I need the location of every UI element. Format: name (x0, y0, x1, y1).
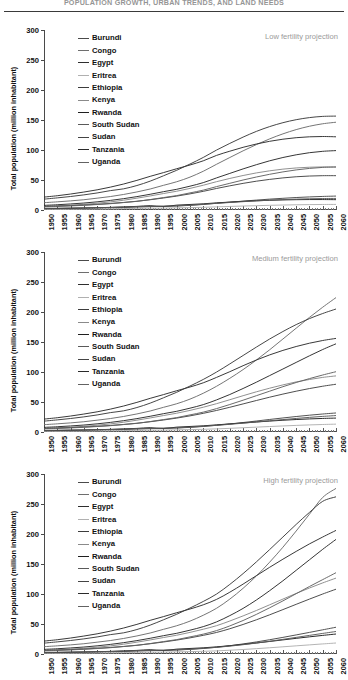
legend-swatch-icon (78, 334, 89, 335)
x-tick-label: 1980 (127, 214, 136, 230)
legend-label: Eritrea (92, 516, 116, 524)
legend-label: South Sudan (92, 343, 139, 351)
legend-item[interactable]: Uganda (78, 600, 139, 612)
legend-item[interactable]: Tanzania (78, 144, 139, 156)
legend-label: Sudan (92, 355, 116, 363)
x-tick-label: 1995 (166, 436, 175, 452)
x-tick-label: 1975 (113, 214, 122, 230)
chart-title: Low fertility projection (265, 32, 338, 41)
x-tick-label: 1955 (60, 658, 69, 674)
legend-item[interactable]: South Sudan (78, 341, 139, 353)
legend-item[interactable]: Rwanda (78, 328, 139, 340)
x-tick-label: 2010 (206, 436, 215, 452)
legend-swatch-icon (78, 606, 89, 607)
chart-legend: BurundiCongoEgyptEritreaEthiopiaKenyaRwa… (78, 32, 139, 168)
legend-item[interactable]: Rwanda (78, 106, 139, 118)
legend-item[interactable]: Burundi (78, 254, 139, 266)
legend-swatch-icon (78, 371, 89, 372)
legend-item[interactable]: Ethiopia (78, 82, 139, 94)
x-tick-label: 2055 (326, 214, 335, 230)
x-tick-label: 2020 (233, 436, 242, 452)
legend-item[interactable]: Uganda (78, 378, 139, 390)
legend-swatch-icon (78, 309, 89, 310)
chart-title: High fertility projection (263, 476, 338, 485)
x-tick-label: 1985 (140, 436, 149, 452)
legend-item[interactable]: Burundi (78, 32, 139, 44)
legend-swatch-icon (78, 494, 89, 495)
legend-item[interactable]: Egypt (78, 501, 139, 513)
y-tick-label: 150 (0, 338, 44, 347)
x-tick-label: 2030 (259, 214, 268, 230)
x-tick-label: 2000 (180, 214, 189, 230)
x-tick-label: 2040 (286, 214, 295, 230)
legend-item[interactable]: Tanzania (78, 366, 139, 378)
x-tick-label: 2035 (273, 214, 282, 230)
x-tick-label: 1950 (47, 214, 56, 230)
legend-item[interactable]: Egypt (78, 57, 139, 69)
legend-item[interactable]: Sudan (78, 575, 139, 587)
x-tick-label: 1950 (47, 436, 56, 452)
legend-item[interactable]: Burundi (78, 476, 139, 488)
y-tick-label: 100 (0, 146, 44, 155)
x-tick-label: 2030 (259, 658, 268, 674)
x-tick-label: 1990 (153, 658, 162, 674)
legend-item[interactable]: Tanzania (78, 588, 139, 600)
x-tick-label: 2005 (193, 436, 202, 452)
legend-item[interactable]: Uganda (78, 156, 139, 168)
legend-item[interactable]: South Sudan (78, 563, 139, 575)
series-line (44, 416, 336, 431)
legend-item[interactable]: Rwanda (78, 550, 139, 562)
legend-label: Eritrea (92, 294, 116, 302)
legend-item[interactable]: Congo (78, 44, 139, 56)
legend-item[interactable]: Ethiopia (78, 304, 139, 316)
legend-label: Congo (92, 47, 116, 55)
legend-item[interactable]: South Sudan (78, 119, 139, 131)
legend-item[interactable]: Sudan (78, 131, 139, 143)
legend-item[interactable]: Congo (78, 488, 139, 500)
x-tick-label: 2015 (220, 436, 229, 452)
x-tick-label: 2055 (326, 436, 335, 452)
legend-label: Rwanda (92, 553, 121, 561)
y-tick-mark (41, 210, 44, 211)
x-tick-label: 2060 (339, 436, 348, 452)
x-tick-label: 1970 (100, 214, 109, 230)
x-tick-label: 2005 (193, 658, 202, 674)
y-tick-label: 300 (0, 248, 44, 257)
x-tick-label: 2015 (220, 214, 229, 230)
legend-item[interactable]: Kenya (78, 538, 139, 550)
chart-panel-low: Total population (million inhabitant)050… (0, 18, 348, 240)
legend-item[interactable]: Sudan (78, 353, 139, 365)
legend-item[interactable]: Kenya (78, 316, 139, 328)
legend-label: Tanzania (92, 590, 124, 598)
x-tick-label: 1990 (153, 436, 162, 452)
legend-label: Congo (92, 269, 116, 277)
legend-label: South Sudan (92, 565, 139, 573)
legend-swatch-icon (78, 149, 89, 150)
legend-item[interactable]: Eritrea (78, 291, 139, 303)
legend-swatch-icon (78, 38, 89, 39)
y-tick-label: 100 (0, 590, 44, 599)
legend-item[interactable]: Ethiopia (78, 526, 139, 538)
legend-swatch-icon (78, 75, 89, 76)
x-tick-label: 2060 (339, 214, 348, 230)
x-tick-label: 2010 (206, 658, 215, 674)
legend-swatch-icon (78, 62, 89, 63)
legend-item[interactable]: Eritrea (78, 513, 139, 525)
legend-item[interactable]: Eritrea (78, 69, 139, 81)
legend-item[interactable]: Congo (78, 266, 139, 278)
legend-label: Kenya (92, 96, 115, 104)
x-tick-label: 1960 (74, 214, 83, 230)
x-tick-label: 1975 (113, 436, 122, 452)
x-tick-label: 2020 (233, 658, 242, 674)
x-tick-label: 2055 (326, 658, 335, 674)
legend-label: Kenya (92, 540, 115, 548)
legend-item[interactable]: Kenya (78, 94, 139, 106)
legend-swatch-icon (78, 568, 89, 569)
x-tick-label: 2060 (339, 658, 348, 674)
y-tick-mark (41, 654, 44, 655)
legend-item[interactable]: Egypt (78, 279, 139, 291)
x-tick-label: 1955 (60, 214, 69, 230)
legend-swatch-icon (78, 100, 89, 101)
x-tick-label: 1965 (87, 436, 96, 452)
x-tick-label: 2045 (299, 436, 308, 452)
